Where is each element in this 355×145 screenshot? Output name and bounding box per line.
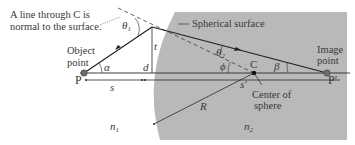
center-label-line2: sphere — [254, 100, 282, 111]
theta1-label: θ1 — [122, 19, 131, 33]
alpha-label: α — [104, 61, 110, 73]
medium-2-region — [154, 12, 347, 140]
incident-arrow — [115, 45, 121, 50]
beta-label: β — [273, 60, 280, 72]
n1-label: n1 — [110, 120, 119, 134]
center-label-line1: Center of — [252, 89, 292, 100]
object-label-line1: Object — [67, 45, 95, 56]
radius-end — [153, 123, 155, 125]
point-p-prime-label: P′ — [328, 73, 338, 87]
object-label-line2: point — [67, 57, 89, 68]
refraction-diagram: A line through C is normal to the surfac… — [0, 0, 355, 145]
phi-label: ϕ — [220, 60, 226, 72]
point-p-label: P — [75, 73, 82, 87]
note-leader — [100, 17, 120, 25]
point-c-label: C — [250, 58, 257, 70]
s-prime-label: s′ — [240, 78, 247, 90]
note-text-line1: A line through C is — [10, 9, 90, 20]
s-label: s — [110, 81, 114, 93]
image-label-line2: point — [317, 55, 339, 66]
surface-label: Spherical surface — [192, 18, 265, 29]
distance-tick-mid — [141, 79, 143, 81]
t-label: t — [154, 40, 158, 52]
theta1-arc — [135, 18, 139, 36]
image-label-line1: Image — [317, 44, 344, 55]
object-point — [81, 70, 87, 76]
distance-tick-mid2 — [144, 79, 146, 81]
r-label: R — [199, 100, 207, 112]
alpha-arc — [99, 63, 102, 73]
note-text-line2: normal to the surface. — [10, 21, 102, 32]
d-label: d — [143, 61, 149, 73]
distance-tick-left — [85, 79, 87, 81]
